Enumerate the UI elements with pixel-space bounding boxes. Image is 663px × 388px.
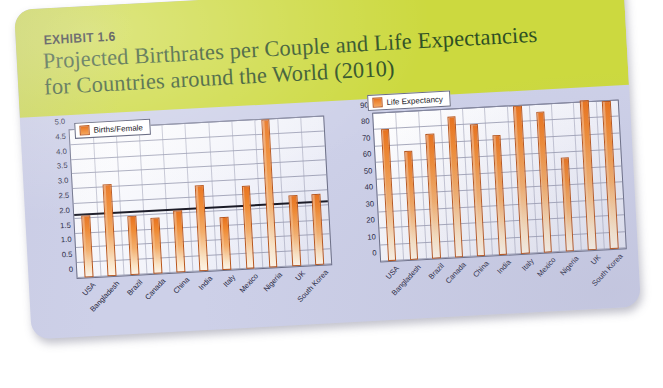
y-axis-tick-label: 80 — [361, 117, 370, 126]
y-axis-tick-label: 30 — [365, 199, 374, 208]
x-axis-tick-label: China — [171, 275, 191, 295]
plot-area-births: 00.51.01.52.02.53.03.54.04.55.0 — [69, 115, 333, 279]
figure-page: EXHIBIT 1.6 Projected Birthrates per Cou… — [0, 0, 663, 388]
x-axis-tick-label: Mexico — [238, 271, 261, 294]
y-axis-tick-label: 40 — [364, 183, 373, 192]
x-axis-tick-label: China — [471, 259, 491, 279]
bar — [447, 116, 463, 258]
bar — [513, 106, 529, 254]
y-axis-tick-label: 2.0 — [59, 206, 70, 216]
x-axis-tick-label: UK — [293, 269, 307, 283]
y-axis-tick-label: 10 — [367, 232, 376, 241]
x-axis-tick-label: Italy — [519, 257, 535, 273]
bar — [602, 101, 618, 249]
legend-swatch-icon — [79, 125, 90, 136]
bar — [561, 157, 575, 251]
y-axis-tick-label: 70 — [362, 133, 371, 142]
y-axis-tick-label: 4.5 — [55, 132, 66, 142]
category-separator — [395, 112, 404, 260]
y-axis-tick-label: 3.0 — [58, 176, 69, 186]
bar — [151, 217, 163, 274]
bar — [241, 186, 254, 269]
x-axis-tick-label: Brazil — [125, 278, 144, 298]
bar — [426, 134, 441, 259]
legend-life-expectancy: Life Expectancy — [367, 91, 451, 111]
x-axis-tick-label: India — [495, 258, 513, 276]
category-separator — [484, 108, 493, 256]
y-axis-tick-label: 2.5 — [58, 191, 69, 201]
x-axis-tick-label: Nigeria — [558, 254, 581, 277]
legend-swatch-icon — [372, 97, 383, 108]
plot-area-life-expectancy: 0102030405060708090 — [372, 99, 627, 262]
x-axis-tick-label: India — [196, 274, 214, 292]
bar — [195, 185, 208, 271]
legend-label-life-expectancy: Life Expectancy — [386, 94, 443, 106]
x-axis-tick-label: Canada — [444, 260, 468, 285]
exhibit-figure: EXHIBIT 1.6 Projected Birthrates per Cou… — [14, 0, 641, 340]
y-axis-tick-label: 60 — [363, 150, 372, 159]
gridline — [72, 160, 326, 175]
y-axis-tick-label: 1.0 — [61, 235, 72, 245]
x-axis-tick-label: Italy — [221, 273, 237, 289]
x-axis-tick-label: USA — [384, 264, 401, 281]
gridline — [71, 145, 325, 160]
y-axis-tick-label: 3.5 — [57, 161, 68, 171]
y-axis-tick-label: 0 — [69, 265, 74, 274]
x-axis-tick-label: Canada — [143, 276, 167, 301]
y-axis-tick-label: 1.5 — [60, 220, 71, 230]
y-axis-tick-label: 4.0 — [56, 146, 67, 156]
bar — [127, 216, 139, 276]
bar — [536, 111, 552, 253]
category-separator — [551, 104, 560, 252]
legend-label-births: Births/Female — [93, 123, 143, 135]
chart-births-per-female: 00.51.01.52.02.53.03.54.04.55.0 USABangl… — [28, 111, 338, 327]
y-axis-tick-label: 0 — [372, 248, 377, 257]
x-axis-tick-label: USA — [81, 280, 98, 297]
x-axis-tick-label: UK — [589, 253, 603, 267]
chart-life-expectancy: 0102030405060708090 USABangladeshBrazilC… — [338, 95, 633, 310]
y-axis-tick-label: 5.0 — [54, 117, 65, 127]
bar — [173, 210, 185, 273]
y-axis-tick-label: 0.5 — [62, 250, 73, 260]
y-axis-tick-label: 20 — [366, 215, 375, 224]
bar — [81, 215, 93, 278]
x-axis-tick-label: Nigeria — [261, 270, 284, 293]
bar — [580, 100, 597, 250]
y-axis-tick-label: 50 — [364, 166, 373, 175]
x-axis-tick-label: Mexico — [535, 255, 558, 278]
